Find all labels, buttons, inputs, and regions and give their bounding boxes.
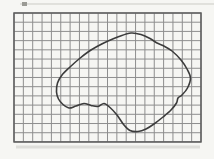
grid-lines [14, 13, 201, 142]
scan-artifact-tick [22, 2, 27, 6]
scanned-figure-page [0, 0, 214, 159]
grid-paper-figure [0, 0, 214, 159]
